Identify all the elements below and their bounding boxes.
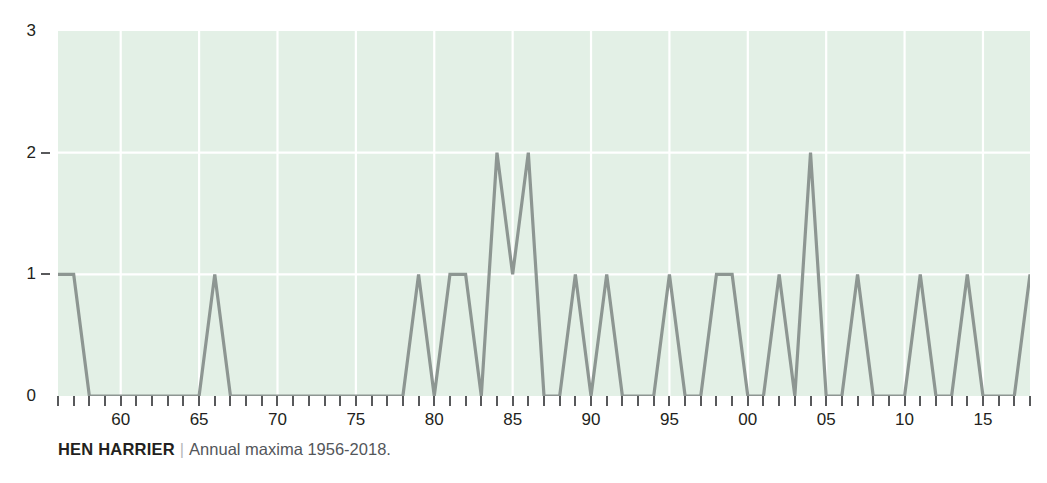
x-tick-mark <box>402 396 404 406</box>
x-tick-mark <box>684 396 686 406</box>
x-tick-mark <box>339 396 341 406</box>
series-line <box>58 31 1030 396</box>
x-tick-mark <box>951 396 953 406</box>
chart-figure: 0123 606570758085909500051015 HEN HARRIE… <box>0 0 1047 483</box>
x-tick-mark <box>73 396 75 406</box>
x-tick-mark <box>606 396 608 406</box>
caption-species: HEN HARRIER <box>58 440 175 458</box>
x-tick-label: 80 <box>425 410 444 430</box>
x-tick-label: 15 <box>973 410 992 430</box>
x-tick-mark <box>559 396 561 406</box>
x-tick-mark <box>261 396 263 406</box>
x-tick-mark <box>888 396 890 406</box>
x-tick-label: 75 <box>346 410 365 430</box>
x-tick-mark <box>841 396 843 406</box>
x-tick-mark <box>292 396 294 406</box>
x-tick-mark <box>496 396 498 406</box>
x-tick-mark <box>872 396 874 406</box>
x-tick-mark <box>1013 396 1015 406</box>
x-tick-mark <box>418 396 420 406</box>
x-tick-mark <box>857 396 859 406</box>
x-tick-label: 10 <box>895 410 914 430</box>
x-tick-mark <box>966 396 968 406</box>
x-tick-mark <box>810 396 812 406</box>
x-tick-mark <box>637 396 639 406</box>
x-tick-mark <box>324 396 326 406</box>
x-tick-mark <box>167 396 169 406</box>
x-tick-label: 95 <box>660 410 679 430</box>
caption: HEN HARRIER|Annual maxima 1956-2018. <box>58 440 391 459</box>
x-tick-label: 90 <box>582 410 601 430</box>
x-tick-mark <box>794 396 796 406</box>
x-tick-mark <box>88 396 90 406</box>
x-tick-mark <box>198 396 200 406</box>
x-tick-mark <box>543 396 545 406</box>
x-tick-mark <box>621 396 623 406</box>
y-tick-label: 1 <box>27 264 36 284</box>
x-tick-label: 05 <box>817 410 836 430</box>
x-tick-mark <box>449 396 451 406</box>
x-tick-mark <box>668 396 670 406</box>
x-tick-mark <box>386 396 388 406</box>
x-tick-mark <box>778 396 780 406</box>
x-tick-mark <box>135 396 137 406</box>
caption-separator: | <box>175 440 189 458</box>
x-tick-mark <box>919 396 921 406</box>
x-tick-mark <box>982 396 984 406</box>
y-axis: 0123 <box>0 31 58 396</box>
x-tick-mark <box>104 396 106 406</box>
x-tick-mark <box>747 396 749 406</box>
y-tick-label: 2 <box>27 143 36 163</box>
x-tick-label: 70 <box>268 410 287 430</box>
x-tick-mark <box>904 396 906 406</box>
x-tick-mark <box>998 396 1000 406</box>
x-tick-mark <box>700 396 702 406</box>
x-tick-mark <box>371 396 373 406</box>
x-tick-mark <box>433 396 435 406</box>
x-tick-mark <box>715 396 717 406</box>
x-tick-label: 85 <box>503 410 522 430</box>
x-tick-label: 00 <box>738 410 757 430</box>
x-tick-mark <box>935 396 937 406</box>
x-tick-mark <box>245 396 247 406</box>
x-tick-mark <box>762 396 764 406</box>
x-tick-mark <box>214 396 216 406</box>
x-tick-label: 60 <box>111 410 130 430</box>
y-tick-label: 3 <box>27 21 36 41</box>
x-tick-mark <box>825 396 827 406</box>
x-tick-mark <box>229 396 231 406</box>
x-tick-mark <box>308 396 310 406</box>
x-tick-mark <box>120 396 122 406</box>
y-tick-label: 0 <box>27 386 36 406</box>
x-tick-mark <box>182 396 184 406</box>
x-tick-mark <box>574 396 576 406</box>
x-tick-mark <box>653 396 655 406</box>
y-tick-mark <box>41 273 50 275</box>
x-tick-label: 65 <box>190 410 209 430</box>
x-tick-mark <box>512 396 514 406</box>
x-tick-mark <box>355 396 357 406</box>
plot-area <box>58 31 1030 396</box>
x-tick-mark <box>731 396 733 406</box>
x-tick-mark <box>276 396 278 406</box>
y-tick-mark <box>41 152 50 154</box>
caption-description: Annual maxima 1956-2018. <box>189 440 391 458</box>
x-tick-mark <box>527 396 529 406</box>
x-tick-mark <box>1029 396 1031 406</box>
x-axis: 606570758085909500051015 <box>58 396 1030 436</box>
x-tick-mark <box>57 396 59 406</box>
x-tick-mark <box>590 396 592 406</box>
x-tick-mark <box>480 396 482 406</box>
x-tick-mark <box>151 396 153 406</box>
x-tick-mark <box>465 396 467 406</box>
